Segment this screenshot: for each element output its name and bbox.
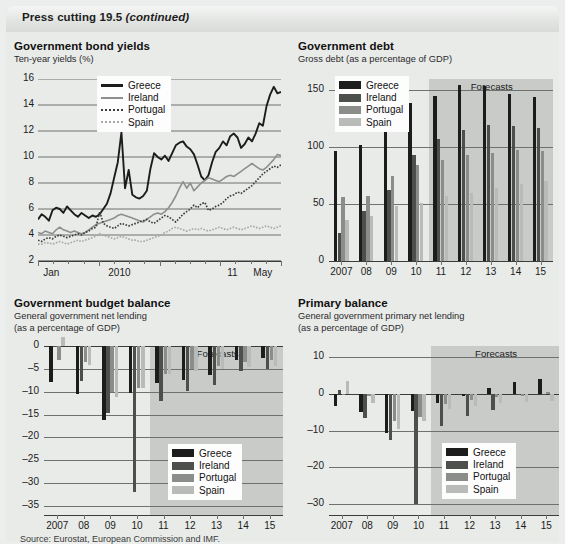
- x-tick: [416, 261, 417, 265]
- x-tick: [521, 515, 522, 519]
- bar-portugal-10: [137, 346, 141, 388]
- bar-spain-2007: [345, 220, 348, 261]
- bar-ireland-12: [462, 130, 465, 261]
- bar-spain-15: [544, 181, 547, 261]
- bar-portugal-10: [418, 394, 421, 417]
- legend-label-portugal: Portugal: [199, 472, 236, 483]
- x-tick: [235, 261, 236, 264]
- legend-swatch-ireland: [446, 461, 468, 469]
- bar-ireland-08: [362, 211, 365, 261]
- bar-greece-09: [384, 128, 387, 261]
- card-titlebar: Press cutting 19.5 (continued): [6, 6, 559, 33]
- bar-greece-09: [102, 346, 106, 420]
- chart-subtitle-line1: General government primary net lending: [298, 311, 559, 323]
- bar-spain-10: [422, 394, 425, 422]
- x-tick: [114, 261, 115, 264]
- bar-portugal-11: [444, 394, 447, 404]
- chart-subtitle-budget-balance: General government net lending (as a per…: [14, 311, 288, 334]
- card-title-continued: (continued): [126, 11, 190, 23]
- bar-portugal-09: [391, 176, 394, 261]
- series-line-ireland: [38, 154, 281, 233]
- y-tick-label: –25: [14, 453, 39, 464]
- legend-swatch-ireland: [172, 462, 194, 470]
- bar-greece-11: [155, 346, 159, 383]
- y-tick-label: –10: [298, 424, 324, 435]
- bar-portugal-08: [367, 394, 370, 397]
- x-tick: [160, 261, 161, 266]
- x-tick: [391, 261, 392, 265]
- legend-label-spain: Spain: [128, 117, 154, 128]
- legend-label-ireland: Ireland: [366, 92, 397, 103]
- y-tick-label: 2: [14, 254, 34, 265]
- legend-swatch-greece: [101, 81, 123, 89]
- legend-budget-balance: Greece Ireland Portugal Spain: [168, 444, 242, 500]
- bar-portugal-13: [491, 153, 494, 261]
- chart-subtitle-government-debt: Gross debt (as a percentage of GDP): [298, 54, 559, 66]
- bar-ireland-13: [213, 346, 217, 385]
- bar-ireland-15: [537, 128, 540, 261]
- bar-ireland-09: [389, 394, 392, 440]
- bar-ireland-13: [491, 394, 494, 410]
- bar-ireland-15: [266, 346, 270, 369]
- y-tick-label: 4: [14, 228, 34, 239]
- bar-ireland-11: [437, 139, 440, 261]
- legend-swatch-spain: [446, 485, 468, 493]
- source-note: Source: Eurostat, European Commission an…: [20, 534, 220, 544]
- bar-greece-15: [533, 97, 536, 261]
- bar-portugal-10: [416, 165, 419, 261]
- legend-item-greece: Greece: [446, 446, 510, 458]
- bar-spain-14: [525, 394, 528, 402]
- bar-greece-08: [76, 346, 80, 394]
- x-tick: [251, 261, 252, 264]
- gridline: [329, 147, 553, 148]
- gridline: [329, 431, 559, 432]
- x-tick: [84, 515, 85, 519]
- legend-swatch-spain: [339, 118, 361, 126]
- x-tick-label: Jan: [29, 267, 73, 278]
- legend-item-ireland: Ireland: [172, 459, 236, 471]
- plot-area-budget-balance: Forecasts: [44, 346, 283, 515]
- legend-label-spain: Spain: [366, 117, 392, 128]
- x-tick-label: 15: [521, 266, 561, 277]
- bar-spain-10: [141, 346, 145, 388]
- x-tick: [217, 515, 218, 519]
- bar-portugal-12: [190, 346, 194, 369]
- legend-item-greece: Greece: [339, 79, 403, 91]
- x-tick: [444, 515, 445, 519]
- x-tick: [57, 515, 58, 519]
- gridline: [44, 460, 283, 461]
- x-tick: [84, 261, 85, 264]
- x-tick: [190, 261, 191, 264]
- legend-label-spain: Spain: [199, 485, 225, 496]
- bar-ireland-2007: [338, 390, 341, 393]
- bar-portugal-15: [541, 151, 544, 261]
- x-tick: [190, 515, 191, 519]
- legend-swatch-portugal: [446, 473, 468, 481]
- legend-government-debt: Greece Ireland Portugal Spain: [335, 76, 409, 132]
- legend-item-portugal: Portugal: [101, 104, 165, 116]
- bar-greece-10: [411, 394, 414, 412]
- x-tick: [220, 261, 221, 266]
- bar-greece-2007: [49, 346, 53, 382]
- bar-spain-11: [445, 196, 448, 261]
- bar-ireland-09: [106, 346, 110, 413]
- bar-spain-08: [370, 216, 373, 262]
- bar-portugal-12: [470, 394, 473, 400]
- legend-label-greece: Greece: [199, 448, 232, 459]
- y-tick-label: 12: [14, 124, 34, 135]
- legend-item-portugal: Portugal: [339, 104, 403, 116]
- chart-title-government-debt: Government debt: [298, 40, 559, 52]
- legend-label-spain: Spain: [473, 484, 499, 495]
- y-tick-label: –30: [298, 497, 324, 508]
- chart-panel-bond-yields: Government bond yields Ten-year yields (…: [14, 40, 288, 290]
- x-tick: [243, 515, 244, 519]
- y-tick-label: –15: [14, 408, 39, 419]
- bar-ireland-14: [517, 394, 520, 395]
- gridline: [329, 504, 559, 505]
- bar-portugal-2007: [342, 394, 345, 395]
- legend-item-spain: Spain: [101, 116, 165, 128]
- gridline: [44, 415, 283, 416]
- bar-spain-14: [247, 346, 251, 367]
- x-tick: [470, 515, 471, 519]
- bar-portugal-15: [546, 392, 549, 393]
